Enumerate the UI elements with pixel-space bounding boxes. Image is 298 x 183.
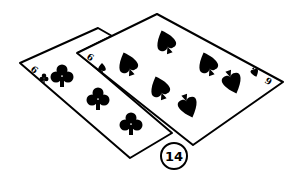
card-illustration: 6 6 xyxy=(0,0,298,183)
callout-label: 14 xyxy=(161,143,187,169)
callout-number: 14 xyxy=(165,149,183,164)
